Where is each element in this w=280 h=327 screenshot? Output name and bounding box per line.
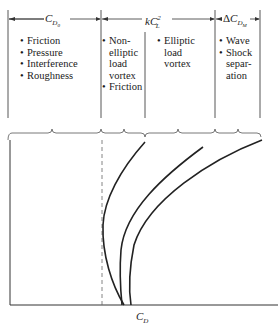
item-roughness: Roughness bbox=[20, 70, 78, 82]
item-friction: Friction bbox=[20, 35, 78, 47]
header-cd0-subsub: 0 bbox=[57, 24, 60, 29]
column-wave-items: Wave Shock separ- ation bbox=[219, 35, 252, 81]
item-elliptic-cont-2: vortex bbox=[164, 58, 195, 70]
item-nonelliptic-cont-1: elliptic bbox=[109, 47, 142, 59]
item-pressure: Pressure bbox=[20, 47, 78, 59]
item-nonelliptic-cont-2: load bbox=[109, 58, 142, 70]
item-wave: Wave bbox=[219, 35, 252, 47]
drag-polar-curves bbox=[103, 140, 262, 305]
header-delta-subsub: M bbox=[242, 24, 246, 29]
range-braces bbox=[8, 129, 261, 140]
item-friction-2: Friction bbox=[102, 81, 142, 93]
header-kcl2: kC2L bbox=[144, 12, 161, 32]
item-shock-cont-1: separ- bbox=[226, 58, 252, 70]
column-cd0-items: Friction Pressure Interference Roughness bbox=[20, 35, 78, 81]
x-axis-label-sub: D bbox=[143, 317, 148, 325]
column-nonelliptic-items: Non- elliptic load vortex Friction bbox=[102, 35, 142, 93]
plot-axes bbox=[10, 140, 278, 305]
item-shock-cont-2: ation bbox=[226, 70, 252, 82]
header-delta-cdm: ΔCDM bbox=[222, 12, 248, 33]
item-nonelliptic-cont-3: vortex bbox=[109, 70, 142, 82]
x-axis-label: CD bbox=[136, 310, 148, 325]
header-kcl2-sup: 2 bbox=[157, 14, 161, 22]
header-kcl2-sub: L bbox=[156, 22, 160, 30]
item-shock: Shock bbox=[219, 47, 252, 59]
curve-1 bbox=[103, 142, 145, 305]
curve-3 bbox=[130, 140, 262, 305]
curve-2 bbox=[120, 147, 203, 305]
item-interference: Interference bbox=[20, 58, 78, 70]
item-nonelliptic: Non- bbox=[102, 35, 142, 47]
item-elliptic: Elliptic bbox=[157, 35, 195, 47]
item-elliptic-cont-1: load bbox=[164, 47, 195, 59]
header-cd0: CD0 bbox=[44, 12, 61, 33]
column-elliptic-items: Elliptic load vortex bbox=[157, 35, 195, 70]
